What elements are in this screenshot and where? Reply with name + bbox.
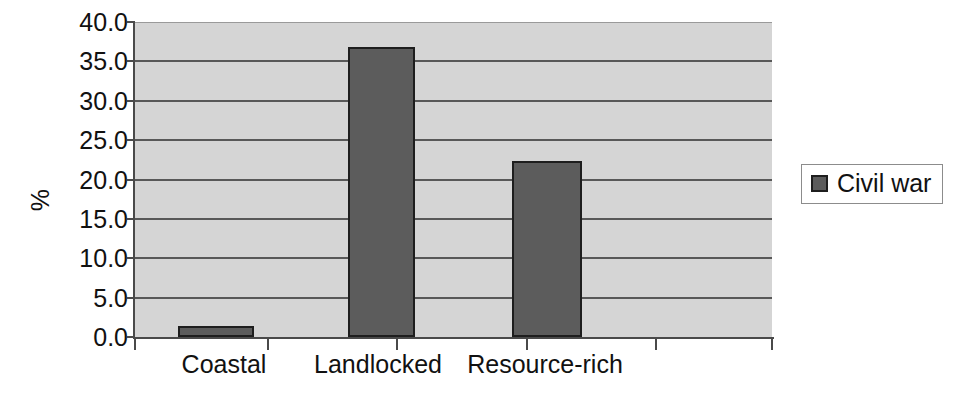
y-axis-tick-mark: [127, 100, 135, 102]
gridline: [135, 139, 772, 141]
gridline: [135, 100, 772, 102]
bar-chart: % 0.05.010.015.020.025.030.035.040.0 Coa…: [0, 0, 962, 409]
x-axis-line: [133, 337, 774, 339]
legend: Civil war: [801, 164, 943, 204]
x-axis-tick-mark: [655, 339, 657, 350]
y-axis-tick-mark: [127, 218, 135, 220]
y-axis-tick-label: 40.0: [79, 10, 128, 35]
y-axis-tick-label: 20.0: [79, 167, 128, 192]
y-axis-tick-mark: [127, 21, 135, 23]
plot-area: [133, 22, 772, 337]
y-axis-tick-mark: [127, 179, 135, 181]
y-axis-tick-label: 30.0: [79, 88, 128, 113]
y-axis-tick-label: 25.0: [79, 128, 128, 153]
x-axis-tick-label: Coastal: [182, 352, 267, 377]
x-axis-tick-label: Landlocked: [314, 352, 442, 377]
y-axis-tick-mark: [127, 139, 135, 141]
bar-coastal: [178, 326, 254, 337]
bar-resource-rich: [512, 161, 582, 337]
y-axis-tick-label: 0.0: [93, 325, 128, 350]
gridline: [135, 60, 772, 62]
y-axis-tick-label: 35.0: [79, 49, 128, 74]
gridline: [135, 297, 772, 299]
x-axis-tick-mark: [134, 339, 136, 350]
gridline: [135, 218, 772, 220]
y-axis-tick-label: 5.0: [93, 285, 128, 310]
x-axis-tick-mark: [526, 339, 528, 350]
y-axis-tick-mark: [127, 297, 135, 299]
x-axis-tick-mark: [267, 339, 269, 350]
y-axis-tick-mark: [127, 257, 135, 259]
y-axis-tick-labels: 0.05.010.015.020.025.030.035.040.0: [56, 0, 128, 409]
x-axis-tick-label: Resource-rich: [467, 352, 623, 377]
y-axis-tick-label: 10.0: [79, 246, 128, 271]
y-axis-tick-mark: [127, 60, 135, 62]
gridline: [135, 257, 772, 259]
x-axis-tick-labels: CoastalLandlockedResource-rich: [0, 352, 962, 392]
y-axis-tick-label: 15.0: [79, 206, 128, 231]
legend-label-civil-war: Civil war: [837, 171, 931, 196]
x-axis-tick-mark: [771, 339, 773, 350]
x-axis-tick-mark: [396, 339, 398, 350]
plot-top-rule: [135, 22, 772, 23]
legend-swatch-civil-war: [811, 175, 828, 192]
gridline: [135, 179, 772, 181]
bar-landlocked: [348, 47, 415, 337]
